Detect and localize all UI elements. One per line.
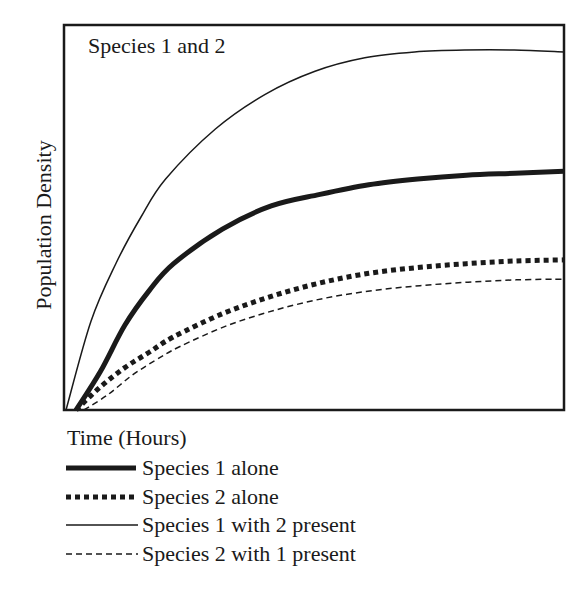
- thick-dotted-line-icon: [66, 491, 138, 503]
- x-axis-label: Time (Hours): [67, 425, 187, 451]
- legend-label: Species 2 alone: [142, 484, 279, 510]
- chart-title: Species 1 and 2: [88, 33, 225, 59]
- legend-item-species1-alone: Species 1 alone: [66, 454, 356, 483]
- legend: Species 1 alone Species 2 alone Species …: [66, 454, 356, 568]
- legend-item-species2-with-1: Species 2 with 1 present: [66, 540, 356, 569]
- plot-frame: [64, 25, 564, 410]
- thin-solid-line-icon: [66, 519, 138, 531]
- legend-item-species1-with-2: Species 1 with 2 present: [66, 511, 356, 540]
- series-line-species-2-with-1-present: [84, 279, 564, 410]
- legend-label: Species 1 with 2 present: [142, 512, 356, 538]
- series-layer: [66, 50, 564, 410]
- thick-solid-line-icon: [66, 462, 138, 474]
- legend-label: Species 2 with 1 present: [142, 541, 356, 567]
- thin-dashed-line-icon: [66, 548, 138, 560]
- legend-label: Species 1 alone: [142, 455, 279, 481]
- series-line-species-1-alone: [76, 171, 564, 410]
- legend-item-species2-alone: Species 2 alone: [66, 483, 356, 512]
- series-line-species-2-alone: [76, 260, 564, 410]
- y-axis-label: Population Density: [31, 140, 57, 309]
